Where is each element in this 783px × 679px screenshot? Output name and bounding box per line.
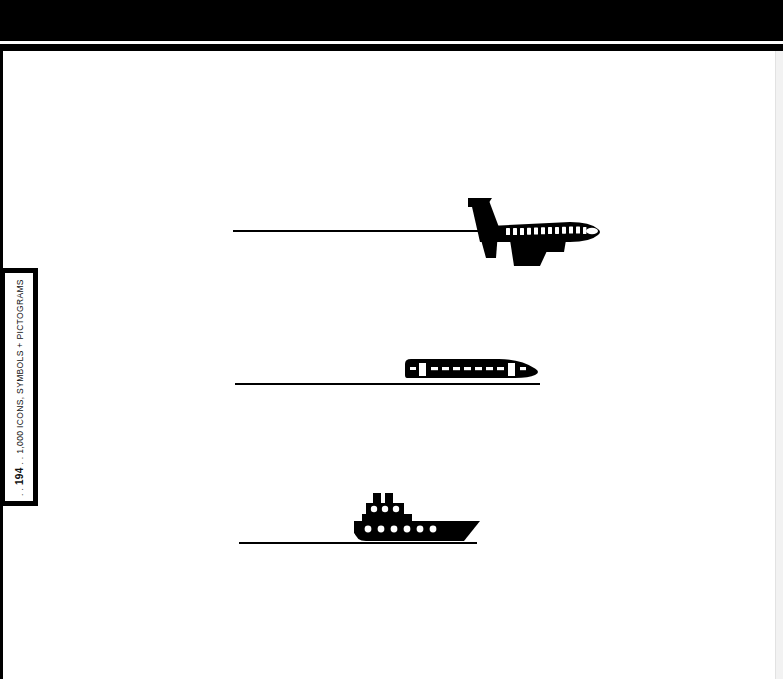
running-head-text: . . 194 . . 1,000 ICONS, SYMBOLS + PICTO… [14,279,25,496]
ship-pictogram [352,491,484,545]
header-black-rule [0,44,783,51]
flight-path-line [233,230,501,232]
running-head-dot-prefix: . . [15,487,25,495]
running-head-title: 1,000 ICONS, SYMBOLS + PICTOGRAMS [15,279,25,454]
header-black-band [0,0,783,41]
right-edge-strip [775,51,783,679]
ship-icon [352,491,484,545]
page-canvas: . . 194 . . 1,000 ICONS, SYMBOLS + PICTO… [0,0,783,679]
running-head-dot-separator: . . [15,456,25,464]
airplane-pictogram [466,196,606,268]
running-head-inner: . . 194 . . 1,000 ICONS, SYMBOLS + PICTO… [5,273,33,501]
page-number: 194 [14,467,25,485]
running-head-box: . . 194 . . 1,000 ICONS, SYMBOLS + PICTO… [0,268,38,506]
page-sheet [0,51,783,679]
train-pictogram [403,356,543,386]
airplane-icon [466,196,606,268]
train-icon [403,356,543,386]
